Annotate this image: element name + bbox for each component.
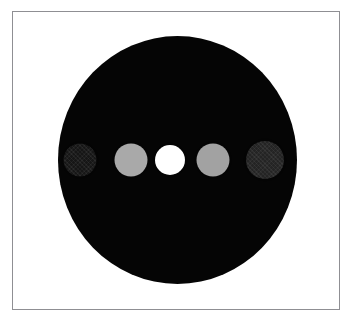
plot-frame [12,11,340,310]
spot-4-light-gray [197,144,230,177]
figure-canvas [0,0,353,325]
spot-5-dark [246,141,284,179]
spot-2-light-gray [115,144,148,177]
spot-1-darkest [64,144,97,177]
spot-3-white [155,145,185,175]
